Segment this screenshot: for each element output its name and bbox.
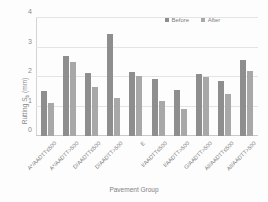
bar-group — [36, 18, 58, 136]
bar-before — [218, 81, 224, 136]
bar-group — [147, 18, 169, 136]
y-tick-label: 0 — [28, 126, 32, 133]
x-axis-labels: A*/AADTT≤500A*/AADTT>500D/AADTT≤500D/AAD… — [36, 138, 258, 186]
y-tick-label: 4 — [28, 8, 32, 15]
bar-before — [41, 91, 47, 136]
bar-group — [125, 18, 147, 136]
bar-group — [236, 18, 258, 136]
bar-group — [169, 18, 191, 136]
bar-before — [196, 74, 202, 136]
rutting-bar-chart: Before After Rutting Sb (mm) 01234 A*/AA… — [0, 0, 268, 202]
plot-area: 01234 — [36, 18, 258, 136]
bar-before — [129, 72, 135, 136]
bar-before — [63, 56, 69, 136]
bar-after — [114, 98, 120, 136]
bar-group — [214, 18, 236, 136]
bar-group — [103, 18, 125, 136]
bar-after — [159, 101, 165, 136]
y-tick-label: 2 — [28, 67, 32, 74]
x-axis-title: Pavement Group — [0, 186, 268, 193]
bar-groups — [36, 18, 258, 136]
bar-group — [58, 18, 80, 136]
bar-after — [92, 87, 98, 136]
bar-before — [107, 34, 113, 136]
x-tick-label: E — [139, 140, 146, 147]
bar-after — [181, 109, 187, 136]
y-tick-label: 3 — [28, 37, 32, 44]
bar-group — [80, 18, 102, 136]
bar-before — [152, 79, 158, 136]
bar-after — [203, 77, 209, 136]
bar-after — [225, 94, 231, 136]
bar-after — [247, 71, 253, 136]
bar-after — [136, 76, 142, 136]
bar-after — [48, 103, 54, 136]
bar-before — [174, 90, 180, 136]
bar-before — [85, 73, 91, 136]
y-tick-label: 1 — [28, 96, 32, 103]
bar-before — [240, 60, 246, 136]
bar-after — [70, 62, 76, 136]
bar-group — [191, 18, 213, 136]
